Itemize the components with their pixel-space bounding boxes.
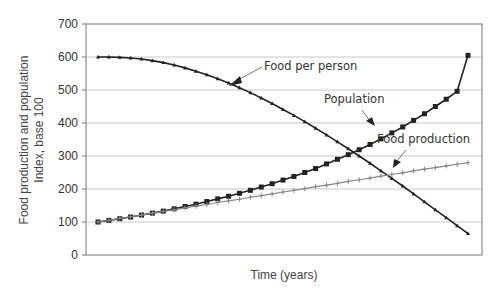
annotation-population: Population: [324, 92, 384, 126]
annotation-food-production: Food production: [377, 132, 470, 168]
series-food-production: [96, 160, 470, 224]
svg-text:0: 0: [71, 248, 78, 262]
y-axis-label: Food production and population Index, ba…: [17, 56, 46, 225]
y-axis-ticks: 0100200300400500600700: [58, 17, 86, 262]
chart: 0100200300400500600700 Food per person P…: [0, 0, 501, 296]
svg-text:700: 700: [58, 17, 78, 31]
svg-text:400: 400: [58, 116, 78, 130]
svg-text:100: 100: [58, 215, 78, 229]
svg-text:Population: Population: [324, 92, 384, 106]
annotation-food-per-person: Food per person: [229, 59, 357, 86]
svg-text:300: 300: [58, 149, 78, 163]
svg-text:Food per person: Food per person: [264, 59, 357, 73]
svg-text:600: 600: [58, 50, 78, 64]
arrow-icon: [366, 117, 375, 126]
svg-text:200: 200: [58, 182, 78, 196]
svg-text:Index, base 100: Index, base 100: [32, 97, 46, 183]
svg-text:500: 500: [58, 83, 78, 97]
svg-text:Food production: Food production: [377, 132, 470, 146]
x-axis-label: Time (years): [251, 268, 318, 282]
arrow-icon: [229, 76, 242, 86]
arrow-icon: [393, 159, 401, 168]
svg-text:Food production and population: Food production and population: [17, 56, 31, 225]
